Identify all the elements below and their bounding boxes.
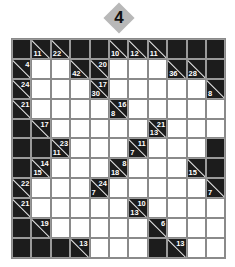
entry-cell[interactable]: [70, 99, 89, 119]
entry-cell[interactable]: [167, 119, 186, 139]
entry-cell[interactable]: [51, 178, 70, 198]
entry-cell[interactable]: [109, 198, 128, 218]
entry-cell[interactable]: [109, 138, 128, 158]
entry-cell[interactable]: [128, 178, 147, 198]
entry-cell[interactable]: [167, 158, 186, 178]
entry-cell[interactable]: [148, 99, 167, 119]
entry-cell[interactable]: [187, 79, 206, 99]
entry-cell[interactable]: [148, 138, 167, 158]
entry-cell[interactable]: [31, 178, 50, 198]
entry-cell[interactable]: [90, 138, 109, 158]
entry-cell[interactable]: [109, 59, 128, 79]
block-cell: [12, 138, 31, 158]
entry-cell[interactable]: [187, 238, 206, 258]
entry-cell[interactable]: [70, 158, 89, 178]
entry-cell[interactable]: [51, 119, 70, 139]
across-clue: 13: [79, 239, 87, 248]
entry-cell[interactable]: [90, 119, 109, 139]
entry-cell[interactable]: [187, 218, 206, 238]
entry-cell[interactable]: [206, 99, 225, 119]
entry-cell[interactable]: [167, 218, 186, 238]
entry-cell[interactable]: [167, 198, 186, 218]
entry-cell[interactable]: [51, 79, 70, 99]
entry-cell[interactable]: [109, 218, 128, 238]
entry-cell[interactable]: [187, 178, 206, 198]
entry-cell[interactable]: [187, 138, 206, 158]
entry-cell[interactable]: [128, 59, 147, 79]
block-cell: [148, 238, 167, 258]
down-clue: 10: [111, 49, 119, 58]
clue-cell: 7: [206, 178, 225, 198]
entry-cell[interactable]: [206, 119, 225, 139]
entry-cell[interactable]: [51, 158, 70, 178]
entry-cell[interactable]: [51, 99, 70, 119]
entry-cell[interactable]: [206, 218, 225, 238]
entry-cell[interactable]: [51, 198, 70, 218]
entry-cell[interactable]: [128, 158, 147, 178]
entry-cell[interactable]: [90, 99, 109, 119]
clue-cell: 1415: [31, 158, 50, 178]
entry-cell[interactable]: [128, 99, 147, 119]
kakuro-grid: 1122101211442203628241730821168172113231…: [11, 38, 226, 259]
entry-cell[interactable]: [31, 79, 50, 99]
entry-cell[interactable]: [90, 198, 109, 218]
entry-cell[interactable]: [148, 59, 167, 79]
across-clue: 17: [40, 120, 48, 129]
entry-cell[interactable]: [70, 119, 89, 139]
entry-cell[interactable]: [90, 238, 109, 258]
entry-cell[interactable]: [109, 119, 128, 139]
clue-cell: 20: [90, 59, 109, 79]
entry-cell[interactable]: [167, 79, 186, 99]
entry-cell[interactable]: [206, 198, 225, 218]
entry-cell[interactable]: [148, 198, 167, 218]
entry-cell[interactable]: [187, 198, 206, 218]
down-clue: 36: [169, 69, 177, 78]
entry-cell[interactable]: [128, 79, 147, 99]
block-cell: [12, 119, 31, 139]
clue-cell: 2113: [148, 119, 167, 139]
down-clue: 7: [208, 188, 212, 197]
block-cell: [167, 39, 186, 59]
block-cell: [31, 138, 50, 158]
clue-cell: 22: [12, 178, 31, 198]
entry-cell[interactable]: [148, 79, 167, 99]
entry-cell[interactable]: [148, 178, 167, 198]
across-clue: 21: [21, 199, 29, 208]
entry-cell[interactable]: [70, 198, 89, 218]
entry-cell[interactable]: [90, 218, 109, 238]
clue-cell: 1730: [90, 79, 109, 99]
block-cell: [206, 59, 225, 79]
entry-cell[interactable]: [128, 238, 147, 258]
entry-cell[interactable]: [109, 79, 128, 99]
entry-cell[interactable]: [109, 178, 128, 198]
entry-cell[interactable]: [51, 218, 70, 238]
clue-cell: 12: [128, 39, 147, 59]
entry-cell[interactable]: [31, 198, 50, 218]
entry-cell[interactable]: [51, 59, 70, 79]
entry-cell[interactable]: [70, 138, 89, 158]
down-clue: 11: [53, 148, 61, 157]
down-clue: 13: [130, 208, 138, 217]
entry-cell[interactable]: [109, 238, 128, 258]
entry-cell[interactable]: [167, 138, 186, 158]
entry-cell[interactable]: [70, 79, 89, 99]
clue-cell: 10: [109, 39, 128, 59]
entry-cell[interactable]: [187, 99, 206, 119]
entry-cell[interactable]: [31, 99, 50, 119]
entry-cell[interactable]: [128, 218, 147, 238]
entry-cell[interactable]: [70, 178, 89, 198]
clue-cell: 6: [148, 218, 167, 238]
down-clue: 12: [130, 49, 138, 58]
entry-cell[interactable]: [70, 218, 89, 238]
entry-cell[interactable]: [187, 119, 206, 139]
entry-cell[interactable]: [167, 178, 186, 198]
entry-cell[interactable]: [128, 119, 147, 139]
entry-cell[interactable]: [90, 158, 109, 178]
entry-cell[interactable]: [148, 158, 167, 178]
entry-cell[interactable]: [31, 59, 50, 79]
entry-cell[interactable]: [167, 99, 186, 119]
across-clue: 10: [137, 199, 145, 208]
block-cell: [187, 39, 206, 59]
entry-cell[interactable]: [206, 238, 225, 258]
across-clue: 16: [118, 100, 126, 109]
